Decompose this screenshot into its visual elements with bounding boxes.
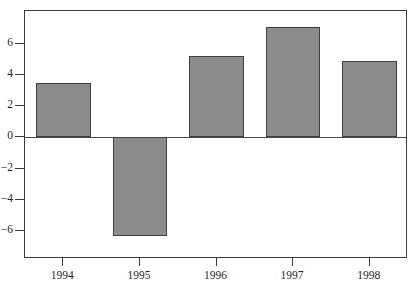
y-tick-label-3: 0	[7, 130, 13, 142]
bar-1996	[189, 56, 244, 137]
x-tick-label-1994: 1994	[51, 270, 74, 282]
x-tick-label-1996: 1996	[204, 270, 227, 282]
y-tick-label-6: −6	[1, 224, 13, 236]
y-tick-label-0: 6	[7, 37, 13, 49]
y-tick-0	[15, 43, 24, 44]
y-tick-label-1: 4	[7, 68, 13, 80]
y-tick-3	[15, 136, 24, 137]
y-tick-5	[15, 199, 24, 200]
y-tick-2	[15, 105, 24, 106]
x-tick-label-1998: 1998	[357, 270, 380, 282]
y-tick-label-4: −2	[1, 162, 13, 174]
x-tick-2	[216, 258, 217, 266]
y-tick-label-5: −4	[1, 193, 13, 205]
x-tick-1	[139, 258, 140, 266]
bar-1998	[342, 61, 397, 137]
y-tick-6	[15, 230, 24, 231]
y-axis: 6420−2−4−6	[0, 0, 24, 291]
x-tick-label-1995: 1995	[127, 270, 150, 282]
bar-1997	[266, 27, 321, 138]
plot-area	[24, 10, 407, 258]
x-tick-0	[62, 258, 63, 266]
x-tick-3	[292, 258, 293, 266]
y-tick-1	[15, 74, 24, 75]
y-tick-label-2: 2	[7, 99, 13, 111]
y-tick-4	[15, 168, 24, 169]
bar-1994	[36, 83, 91, 138]
bar-1995	[113, 137, 168, 235]
bar-chart: 6420−2−4−6 19941995199619971998	[0, 0, 416, 291]
x-tick-label-1997: 1997	[281, 270, 304, 282]
x-tick-4	[369, 258, 370, 266]
